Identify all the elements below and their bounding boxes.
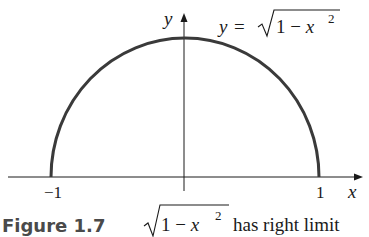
x-axis-arrow-icon xyxy=(354,174,363,181)
svg-text:y: y xyxy=(217,16,228,37)
svg-text:2: 2 xyxy=(328,11,335,26)
tick-label-neg1: −1 xyxy=(44,183,62,202)
svg-text:has right limit: has right limit xyxy=(233,214,340,235)
semicircle-curve xyxy=(51,38,319,177)
x-axis-label: x xyxy=(347,181,357,202)
svg-text:2: 2 xyxy=(215,208,222,223)
svg-text:1 − x: 1 − x xyxy=(161,214,200,235)
svg-text:=: = xyxy=(234,16,245,37)
caption-text: 1 − x 2 has right limit xyxy=(144,205,340,236)
svg-text:1 − x: 1 − x xyxy=(276,16,315,37)
figure-label: Figure 1.7 xyxy=(2,215,105,236)
y-axis-arrow-icon xyxy=(181,13,188,22)
y-axis-label: y xyxy=(162,8,173,29)
semicircle-plot: y x −1 1 y = 1 − x 2 Figure 1.7 1 − x 2 … xyxy=(0,0,369,237)
tick-label-pos1: 1 xyxy=(316,183,325,202)
curve-equation-label: y = 1 − x 2 xyxy=(217,10,340,37)
